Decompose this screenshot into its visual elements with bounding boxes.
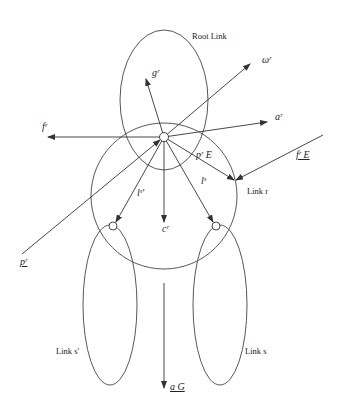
link-s-shape bbox=[193, 225, 247, 385]
omega-r-label: ωʳ bbox=[262, 54, 272, 65]
p-r-label: pʳ bbox=[19, 256, 28, 267]
l-s-label: lˢ bbox=[201, 175, 207, 186]
g-r-label: gʳ bbox=[152, 67, 160, 78]
f-r-label: fʳ bbox=[42, 121, 48, 132]
a-G-label: a G bbox=[170, 381, 185, 392]
f-r-E-label: fʳ E bbox=[296, 149, 310, 160]
a-r-label: aʳ bbox=[275, 111, 283, 122]
root-link-label: Root Link bbox=[192, 31, 227, 41]
root-joint-node bbox=[160, 133, 169, 142]
link-r-label: Link r bbox=[247, 186, 268, 196]
link-s-prime-shape bbox=[83, 225, 137, 385]
c-r-label: cʳ bbox=[162, 223, 169, 234]
p-r-E-label: pʳ E bbox=[195, 149, 212, 160]
link-s-label: Link s bbox=[245, 346, 267, 356]
g-r-arrow bbox=[146, 79, 164, 137]
link-s-prime-label: Link s′ bbox=[56, 346, 79, 356]
l-s-prime-label: lˢ′ bbox=[137, 187, 145, 198]
joint-s-prime-node bbox=[109, 222, 117, 230]
link-diagram: Root Link ωʳ gʳ aʳ fʳ pʳ E fʳ E Link r l… bbox=[0, 0, 342, 411]
f-r-E-arrow bbox=[236, 135, 323, 180]
joint-s-node bbox=[212, 222, 220, 230]
l-s-prime-arrow bbox=[116, 137, 164, 222]
